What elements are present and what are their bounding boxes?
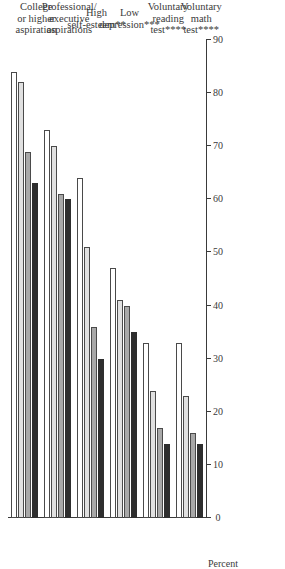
bar-3-4 xyxy=(98,359,104,518)
axis-tick-label-50: 50 xyxy=(206,247,230,257)
value-axis-line xyxy=(206,40,207,518)
axis-tick-label-10: 10 xyxy=(206,460,230,470)
axis-tick-label-0: 0 xyxy=(206,513,230,523)
axis-title-percent: Percent xyxy=(208,558,238,569)
axis-tick-label-80: 80 xyxy=(206,88,230,98)
axis-tick-label-40: 40 xyxy=(206,301,230,311)
axis-tick-label-60: 60 xyxy=(206,194,230,204)
bar-6-3 xyxy=(190,433,196,518)
bar-6-2 xyxy=(183,396,189,518)
plot-area xyxy=(8,40,206,518)
bar-5-1 xyxy=(143,343,149,518)
bar-5-2 xyxy=(150,391,156,518)
bar-4-2 xyxy=(117,300,123,518)
axis-tick-label-70: 70 xyxy=(206,141,230,151)
bar-2-2 xyxy=(51,146,57,518)
category-label-6: Voluntary math test**** xyxy=(141,1,261,36)
bar-2-1 xyxy=(44,130,50,518)
bar-1-1 xyxy=(11,72,17,518)
bar-1-3 xyxy=(25,152,31,518)
bar-3-3 xyxy=(91,327,97,518)
bar-2-4 xyxy=(65,199,71,518)
bar-4-4 xyxy=(131,332,137,518)
bar-5-4 xyxy=(164,444,170,518)
bar-6-1 xyxy=(176,343,182,518)
bar-1-4 xyxy=(32,183,38,518)
bar-3-2 xyxy=(84,247,90,518)
bar-4-3 xyxy=(124,306,130,518)
bar-1-2 xyxy=(18,83,24,519)
bar-4-1 xyxy=(110,268,116,518)
bar-3-1 xyxy=(77,178,83,518)
axis-tick-label-30: 30 xyxy=(206,354,230,364)
axis-tick-label-90: 90 xyxy=(206,35,230,45)
bar-6-4 xyxy=(197,444,203,518)
bar-2-3 xyxy=(58,194,64,518)
bar-5-3 xyxy=(157,428,163,518)
axis-tick-label-20: 20 xyxy=(206,407,230,417)
